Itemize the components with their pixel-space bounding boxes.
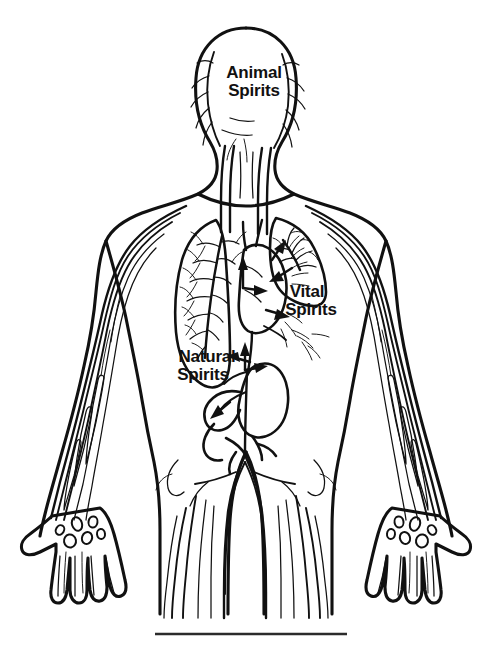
label-animal-spirits: Animal Spirits	[226, 63, 281, 100]
vital-spirits-line1: Vital	[290, 282, 325, 301]
animal-spirits-line1: Animal	[226, 63, 281, 82]
anatomy-illustration: Animal Spirits Vital Spirits Natural Spi…	[0, 0, 491, 647]
animal-spirits-line2: Spirits	[228, 81, 280, 100]
natural-spirits-line1: Natural	[178, 347, 235, 366]
label-natural-spirits: Natural Spirits	[177, 347, 235, 384]
vital-spirits-line2: Spirits	[285, 300, 337, 319]
natural-spirits-line2: Spirits	[177, 365, 229, 384]
anatomical-figure: Animal Spirits Vital Spirits Natural Spi…	[0, 0, 491, 647]
